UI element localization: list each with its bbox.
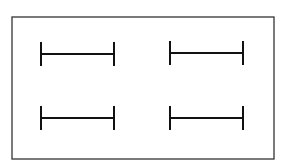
bar-group <box>41 41 243 130</box>
interval-bar-top-right <box>170 41 243 65</box>
frame-border <box>12 17 274 159</box>
interval-bar-top-left <box>41 42 114 66</box>
interval-bar-bottom-left <box>41 106 114 130</box>
diagram-canvas <box>0 0 283 167</box>
interval-bar-bottom-right <box>170 106 243 130</box>
